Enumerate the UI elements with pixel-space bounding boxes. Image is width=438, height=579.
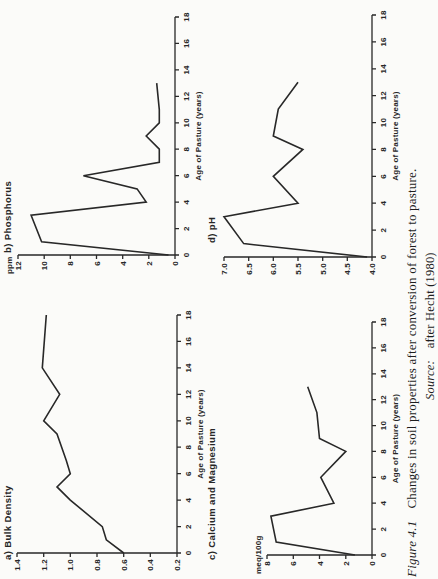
data-line (271, 387, 355, 555)
y-tick-label: 6 (289, 561, 298, 566)
x-tick-label: 8 (182, 147, 191, 152)
x-tick-label: 0 (184, 550, 193, 555)
y-tick-label: 0 (171, 261, 180, 266)
axes (18, 17, 179, 259)
x-tick-label: 6 (379, 174, 388, 179)
y-tick-label: 0.4 (146, 559, 155, 571)
x-tick-label: 2 (184, 524, 193, 529)
x-tick-label: 2 (379, 526, 388, 531)
x-tick-label: 10 (182, 118, 191, 128)
y-tick-label: 4 (119, 261, 128, 266)
x-axis-label: Age of Pasture (years) (391, 91, 400, 180)
chart-phosphorus: b) Phosphorus 024681012141618024681012pp… (0, 0, 215, 292)
y-tick-label: 6.0 (269, 263, 278, 275)
y-tick-label: 12 (14, 261, 23, 271)
x-tick-label: 4 (184, 497, 193, 502)
x-tick-label: 14 (379, 64, 388, 74)
x-tick-label: 12 (184, 389, 193, 399)
rotated-figure: a) Bulk Density 0246810121416180.20.40.6… (0, 0, 438, 579)
y-tick-label: 1.0 (66, 559, 75, 571)
x-tick-label: 10 (379, 118, 388, 128)
x-tick-label: 0 (379, 254, 388, 259)
ph-plot: 0246810121416184.04.55.05.56.06.57.0Age … (193, 0, 413, 292)
data-line (224, 82, 367, 257)
x-tick-label: 10 (184, 416, 193, 426)
x-axis-label: Age of Pasture (years) (391, 394, 400, 483)
y-tick-label: 6.5 (245, 263, 254, 275)
y-tick-label: 5.0 (319, 263, 328, 275)
source-text: after Hecht (1980) (423, 252, 437, 348)
axes (267, 322, 376, 559)
y-tick-label: 8 (66, 261, 75, 266)
x-tick-label: 18 (379, 317, 388, 327)
x-tick-label: 2 (379, 227, 388, 232)
x-tick-label: 4 (379, 201, 388, 206)
y-tick-label: 7.0 (220, 263, 229, 275)
caption-figure-label: Figure 4.1 (404, 521, 419, 577)
y-tick-label: 0.2 (173, 559, 182, 571)
y-tick-label: 2 (342, 561, 351, 566)
y-axis-unit-label: meq/100g (254, 535, 263, 574)
x-tick-label: 6 (379, 475, 388, 480)
x-tick-label: 16 (184, 336, 193, 346)
x-tick-label: 8 (184, 445, 193, 450)
x-tick-label: 0 (182, 252, 191, 257)
y-tick-label: 8 (263, 561, 272, 566)
scanned-figure-page: a) Bulk Density 0246810121416180.20.40.6… (0, 0, 438, 579)
y-tick-label: 0 (368, 561, 377, 566)
axes (224, 15, 376, 261)
x-tick-label: 16 (182, 38, 191, 48)
y-tick-label: 4.5 (343, 263, 352, 275)
x-tick-label: 14 (182, 65, 191, 75)
source-line: Source:after Hecht (1980) (423, 252, 438, 400)
x-tick-label: 4 (379, 501, 388, 506)
x-tick-label: 16 (379, 343, 388, 353)
x-tick-label: 8 (379, 147, 388, 152)
x-tick-label: 12 (182, 91, 191, 101)
phosphorus-plot: 024681012141618024681012ppmAge of Pastur… (0, 0, 215, 292)
x-tick-label: 12 (379, 91, 388, 101)
x-tick-label: 0 (379, 552, 388, 557)
y-tick-label: 4 (316, 561, 325, 566)
calcium-magnesium-plot: 02468101214161802468meq/100gAge of Pastu… (193, 287, 413, 579)
x-tick-label: 4 (182, 199, 191, 204)
caption-text: Changes in soil properties after convers… (404, 169, 419, 509)
axes (17, 315, 181, 557)
source-label: Source: (423, 360, 437, 400)
y-axis-unit-label: ppm (5, 257, 14, 275)
y-tick-label: 2 (145, 261, 154, 266)
data-line (31, 83, 168, 255)
x-tick-label: 6 (182, 173, 191, 178)
chart-ph: d) pH 0246810121416184.04.55.05.56.06.57… (193, 0, 413, 292)
x-tick-label: 10 (379, 421, 388, 431)
bulk-density-plot: 0246810121416180.20.40.60.81.01.21.4Age … (0, 287, 215, 579)
y-tick-label: 4.0 (368, 263, 377, 275)
x-tick-label: 2 (182, 226, 191, 231)
x-tick-label: 18 (379, 10, 388, 20)
x-tick-label: 18 (184, 310, 193, 320)
x-tick-label: 14 (379, 369, 388, 379)
y-tick-label: 10 (40, 261, 49, 271)
chart-bulk-density: a) Bulk Density 0246810121416180.20.40.6… (0, 287, 215, 579)
x-tick-label: 14 (184, 363, 193, 373)
x-tick-label: 18 (182, 12, 191, 22)
y-tick-label: 0.8 (93, 559, 102, 571)
y-tick-label: 6 (93, 261, 102, 266)
y-tick-label: 5.5 (294, 263, 303, 275)
data-line (42, 315, 123, 553)
x-tick-label: 6 (184, 471, 193, 476)
x-tick-label: 8 (379, 449, 388, 454)
y-tick-label: 1.2 (40, 559, 49, 571)
figure-caption: Figure 4.1Changes in soil properties aft… (404, 169, 420, 577)
chart-calcium-magnesium: c) Calcium and Magnesium 024681012141618… (193, 287, 413, 579)
x-tick-label: 12 (379, 395, 388, 405)
y-tick-label: 0.6 (120, 559, 129, 571)
y-tick-label: 1.4 (13, 559, 22, 571)
x-tick-label: 16 (379, 37, 388, 47)
